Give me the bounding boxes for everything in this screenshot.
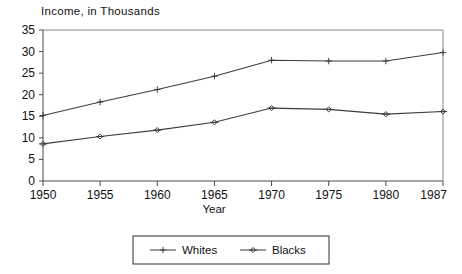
plus-marker [154, 86, 160, 92]
y-tick-label: 25 [22, 66, 36, 80]
y-tick-label: 10 [22, 131, 36, 145]
x-tick-label: 1970 [258, 188, 285, 202]
legend-label: Blacks [272, 244, 306, 256]
y-tick-label: 35 [22, 23, 36, 37]
x-tick-label: 1965 [201, 188, 228, 202]
plot-frame [43, 30, 443, 181]
y-axis-ticks: 05101520253035 [22, 23, 43, 188]
plus-marker [40, 112, 46, 118]
series-whites [40, 49, 446, 118]
x-tick-label: 1980 [373, 188, 400, 202]
plus-marker [440, 49, 446, 55]
series-line [43, 52, 443, 115]
y-tick-label: 5 [28, 152, 35, 166]
chart-title: Income, in Thousands [41, 5, 160, 17]
plus-marker [383, 58, 389, 64]
x-tick-label: 1960 [144, 188, 171, 202]
x-tick-label: 1955 [87, 188, 114, 202]
x-tick-label: 1987 [420, 188, 447, 202]
x-axis-title: Year [202, 203, 225, 215]
data-series-group [39, 49, 447, 146]
plus-marker [211, 73, 217, 79]
chart-canvas: 05101520253035 1950195519601965197019751… [0, 0, 462, 274]
x-tick-label: 1950 [30, 188, 57, 202]
y-tick-label: 30 [22, 45, 36, 59]
diamond-marker [382, 112, 390, 117]
x-axis-ticks: 19501955196019651970197519801987 [30, 181, 448, 202]
y-tick-label: 15 [22, 109, 36, 123]
y-tick-label: 20 [22, 88, 36, 102]
y-tick-label: 0 [28, 174, 35, 188]
plus-marker [326, 58, 332, 64]
diamond-marker [267, 105, 275, 110]
plus-marker [97, 99, 103, 105]
x-tick-label: 1975 [315, 188, 342, 202]
plus-marker [268, 57, 274, 63]
diamond-marker [325, 107, 333, 112]
diamond-marker [210, 120, 218, 125]
chart-legend: WhitesBlacks [133, 236, 329, 264]
income-line-chart: 05101520253035 1950195519601965197019751… [0, 0, 462, 274]
series-line [43, 108, 443, 144]
diamond-marker [153, 127, 161, 132]
legend-label: Whites [182, 244, 217, 256]
diamond-marker [96, 134, 104, 139]
series-blacks [39, 105, 447, 146]
